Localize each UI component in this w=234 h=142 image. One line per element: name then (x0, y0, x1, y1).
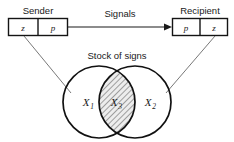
set-label-x1-sub: 1 (90, 102, 94, 111)
recipient-title: Recipient (180, 5, 220, 16)
recipient-group: Recipient p z (173, 5, 228, 36)
set-label-x3-sub: 3 (117, 102, 122, 111)
recipient-to-stock-line-icon (166, 36, 215, 93)
right-arrow-icon (164, 23, 172, 30)
set-label-x2: X 2 (144, 96, 156, 111)
recipient-cell-z: z (211, 23, 216, 33)
set-label-x1: X 1 (82, 96, 94, 111)
stock-of-signs-label: Stock of signs (87, 50, 146, 61)
sender-to-stock-line-icon (24, 36, 71, 93)
signals-label: Signals (104, 8, 135, 19)
sender-group: Sender z p (9, 5, 68, 36)
diagram-canvas: Sender z p Recipient p z Signals Stock o… (0, 0, 234, 142)
sender-cell-z: z (20, 23, 25, 33)
set-label-x2-sub: 2 (152, 102, 156, 111)
signals-group: Signals (68, 8, 173, 31)
diagram-page: Sender z p Recipient p z Signals Stock o… (0, 0, 234, 142)
sender-cell-p: p (50, 23, 56, 33)
recipient-cell-p: p (183, 23, 189, 33)
sender-title: Sender (23, 5, 54, 16)
